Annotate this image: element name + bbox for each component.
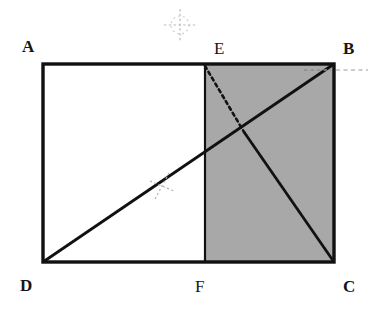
vertex-label-d: D <box>20 277 32 294</box>
geometry-canvas <box>0 0 377 314</box>
vertex-label-f: F <box>195 278 204 295</box>
geometry-figure: A B C D E F <box>0 0 377 314</box>
registration-cross-icon <box>164 9 196 41</box>
vertex-label-c: C <box>343 278 355 295</box>
vertex-label-a: A <box>22 38 34 55</box>
vertex-label-b: B <box>343 40 354 57</box>
vertex-label-e: E <box>214 40 224 57</box>
